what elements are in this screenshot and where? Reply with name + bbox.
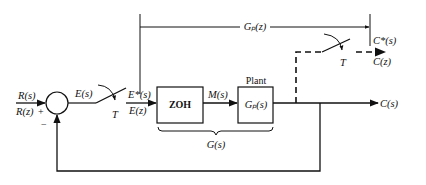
brace-label: G(s)	[207, 139, 226, 151]
sampled-error-z-label: E(z)	[128, 105, 147, 117]
output-label: C(s)	[380, 98, 399, 110]
sampler-period-label: T	[112, 109, 119, 120]
input-sampler-switch: T	[96, 85, 126, 120]
input-label-s: R(s)	[17, 90, 36, 102]
sampled-output-z-label: C(z)	[373, 56, 392, 68]
block-diagram: R(s) R(z) + − E(s) T E*(s) E(z) ZOH M(s)…	[0, 0, 426, 185]
input-label-z: R(z)	[15, 106, 34, 118]
plus-sign: +	[38, 106, 44, 117]
plant-label: Gₚ(s)	[245, 99, 268, 111]
minus-sign: −	[41, 119, 47, 130]
sampled-error-label: E*(s)	[127, 89, 151, 101]
control-signal-label: M(s)	[207, 89, 228, 101]
zoh-label: ZOH	[169, 99, 191, 110]
g-brace	[158, 127, 273, 135]
plant-title: Plant	[246, 75, 267, 86]
error-label: E(s)	[74, 88, 93, 100]
output-sampler: T C*(s) C(z)	[296, 34, 397, 103]
input-signal: R(s) R(z) +	[15, 90, 45, 118]
pulse-transfer-label: Gₚ(z)	[244, 21, 267, 33]
sampled-output-label: C*(s)	[373, 35, 397, 47]
summing-junction	[46, 92, 68, 114]
output-sampler-period-label: T	[340, 57, 347, 68]
